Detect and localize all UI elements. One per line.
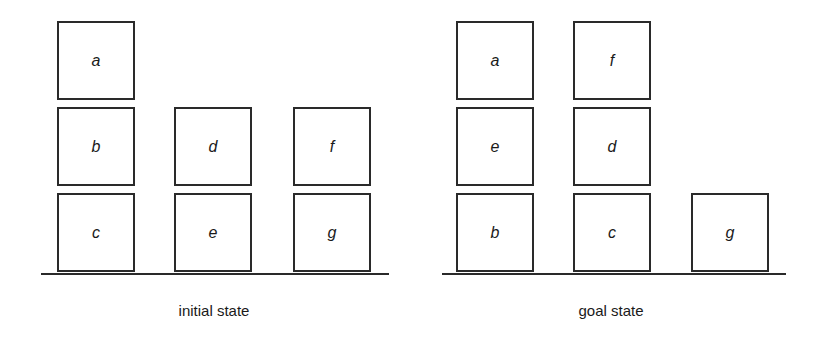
block-label: f	[610, 53, 614, 69]
goal-state-caption: goal state	[578, 302, 643, 319]
goal-state-panel: a e b f d c g goal state	[0, 0, 821, 337]
block-label: a	[491, 53, 500, 69]
block-f: f	[573, 21, 651, 100]
block-e: e	[456, 107, 534, 186]
block-label: b	[491, 225, 500, 241]
block-label: g	[726, 225, 735, 241]
block-g: g	[691, 193, 769, 272]
block-a: a	[456, 21, 534, 100]
block-label: d	[608, 139, 617, 155]
block-b: b	[456, 193, 534, 272]
block-label: c	[608, 225, 616, 241]
block-d: d	[573, 107, 651, 186]
block-label: e	[491, 139, 500, 155]
ground-line	[442, 273, 786, 275]
block-c: c	[573, 193, 651, 272]
